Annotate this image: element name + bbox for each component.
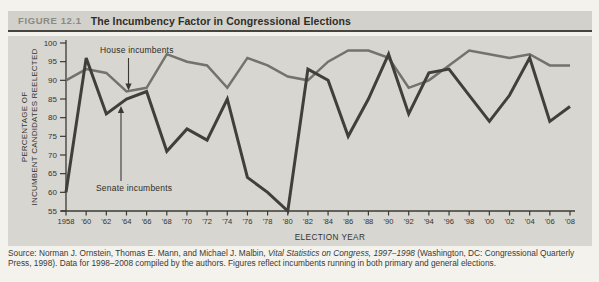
figure-title: The Incumbency Factor in Congressional E… <box>91 15 351 27</box>
figure-header: FIGURE 12.1 The Incumbency Factor in Con… <box>8 11 592 30</box>
y-axis-title-line2: INCUMBENT CANDIDATES REELECTED <box>30 36 40 218</box>
source-text-prefix: Source: Norman J. Ornstein, Thomas E. Ma… <box>8 248 268 258</box>
x-axis-title: ELECTION YEAR <box>270 233 390 242</box>
source-text-citation: Vital Statistics on Congress, 1997–1998 <box>268 248 415 258</box>
figure-block: FIGURE 12.1 The Incumbency Factor in Con… <box>8 11 592 32</box>
source-note: Source: Norman J. Ornstein, Thomas E. Ma… <box>8 249 590 269</box>
scanned-textbook-page: { "colors": { "page_bg": "#f3f2ed", "pan… <box>0 0 599 282</box>
y-axis-title: PERCENTAGE OF INCUMBENT CANDIDATES REELE… <box>20 36 40 218</box>
chart-panel <box>8 36 592 246</box>
senate-incumbents-annotation: Senate incumbents <box>96 183 172 193</box>
house-incumbents-annotation: House incumbents <box>100 45 174 55</box>
figure-number-label: FIGURE 12.1 <box>18 15 82 26</box>
header-rule <box>8 30 592 32</box>
y-axis-title-line1: PERCENTAGE OF <box>20 36 30 218</box>
